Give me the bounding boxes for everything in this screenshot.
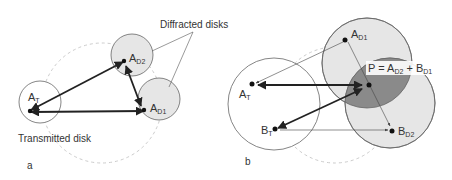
transmitted-disk-label: Transmitted disk (18, 133, 92, 144)
point-bt (273, 127, 278, 132)
point-at (28, 109, 32, 113)
point-ad2 (122, 59, 126, 63)
point-ad1-b (343, 38, 348, 43)
callout-line-2 (169, 32, 193, 87)
panel-a-label: a (27, 160, 33, 171)
transmitted-disk-a (19, 81, 61, 123)
point-at-b (250, 82, 255, 87)
arrow-at-ad1 (31, 111, 144, 112)
point-ad1 (142, 108, 146, 112)
point-bd2 (390, 129, 395, 134)
diagram-canvas: AT AD2 AD1 Diffracted disks Transmitted … (0, 0, 452, 180)
transmitted-disk-b (228, 58, 320, 150)
diffraction-figure: AT AD2 AD1 Diffracted disks Transmitted … (0, 0, 452, 180)
panel-b-label: b (245, 156, 251, 167)
callout-line-1 (152, 32, 193, 51)
point-p (367, 83, 372, 88)
panel-b: AT BT AD1 BD2 P = AD2 + BD1 b (228, 18, 436, 167)
diffracted-disks-label: Diffracted disks (160, 19, 228, 30)
panel-a: AT AD2 AD1 Diffracted disks Transmitted … (18, 19, 228, 171)
